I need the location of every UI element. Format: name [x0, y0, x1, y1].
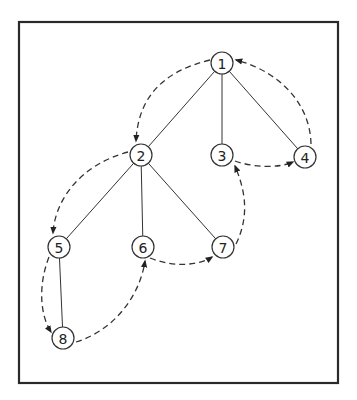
traversal-arrow-4-1 [236, 60, 311, 144]
node-label: 5 [55, 240, 64, 256]
traversal-arrow-1-2 [136, 60, 210, 141]
traversal-arrow-6-7 [150, 257, 212, 264]
tree-edge-2-5 [66, 163, 133, 239]
node-6: 6 [132, 236, 154, 258]
node-label: 2 [137, 148, 146, 164]
tree-edge-5-8 [59, 258, 62, 327]
node-label: 8 [59, 331, 68, 347]
traversal-arrow-7-3 [235, 166, 245, 244]
node-label: 3 [218, 148, 227, 164]
node-3: 3 [211, 144, 233, 166]
node-4: 4 [294, 146, 316, 168]
node-5: 5 [48, 236, 70, 258]
node-8: 8 [52, 327, 74, 349]
traversal-arrow-3-4 [235, 161, 293, 166]
tree-edge-1-4 [229, 71, 297, 149]
node-2: 2 [130, 144, 152, 166]
traversal-edges [42, 60, 311, 342]
traversal-arrow-5-8 [42, 257, 51, 332]
node-label: 4 [301, 150, 310, 166]
node-label: 6 [139, 240, 148, 256]
traversal-arrow-8-6 [76, 261, 145, 342]
node-1: 1 [211, 52, 233, 74]
node-label: 1 [218, 56, 227, 72]
node-7: 7 [212, 236, 234, 258]
tree-edge-2-6 [141, 166, 143, 236]
tree-traversal-diagram: 12345678 [0, 0, 357, 400]
node-label: 7 [219, 240, 228, 256]
traversal-arrow-2-5 [53, 152, 128, 233]
tree-edge-1-2 [148, 71, 214, 146]
tree-edges [59, 71, 297, 327]
tree-edge-2-7 [148, 163, 215, 239]
